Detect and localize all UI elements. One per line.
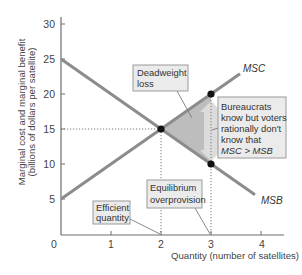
y-axis-title: Marginal cost and marginal benefit (bill… (16, 38, 37, 185)
x-tick-label-2: 2 (158, 238, 164, 250)
data-point (207, 90, 214, 97)
y-tick-label-25: 25 (43, 53, 55, 65)
y-tick-label-5: 5 (49, 193, 55, 205)
efficient-pointer (130, 219, 160, 234)
bureaucrats-callout: Bureaucrats know but voters rationally d… (218, 97, 287, 158)
y-tick-label-10: 10 (43, 158, 55, 170)
y-tick-label-30: 30 (43, 18, 55, 30)
x-tick-label-3: 3 (208, 238, 214, 250)
deadweight-loss-callout: Deadweight loss (133, 65, 188, 91)
bureaucrats-line-2: know but voters (221, 112, 287, 123)
deadweight-loss-line-2: loss (137, 78, 154, 89)
x-axis-title: Quantity (number of satellites) (171, 250, 299, 261)
x-tick-label-4: 4 (259, 238, 265, 250)
overprovision-chart: Marginal cost and marginal benefit (bill… (0, 0, 302, 275)
x-tick-label-1: 1 (108, 238, 114, 250)
equilibrium-overprovision-line-1: Equilibrium (150, 182, 197, 193)
equilibrium-overprovision-callout: Equilibrium overprovision (147, 180, 206, 208)
bureaucrats-line-4: know that (221, 134, 262, 145)
msc-label: MSC (243, 63, 266, 74)
equilibrium-pointer (195, 208, 210, 234)
efficient-quantity-line-2: quantity (96, 212, 129, 223)
y-axis-title-line-2: (billions of dollars per satellite) (26, 47, 37, 176)
y-tick-label-15: 15 (43, 123, 55, 135)
data-point (157, 125, 164, 132)
x-tick-labels: 0 1 2 3 4 (51, 238, 265, 250)
y-tick-label-20: 20 (43, 88, 55, 100)
y-tick-labels: 30 25 20 15 10 5 (43, 18, 55, 205)
origin-label: 0 (51, 238, 57, 250)
data-point (207, 160, 214, 167)
msb-label: MSB (261, 195, 283, 206)
bureaucrats-line-3: rationally don't (221, 123, 282, 134)
bureaucrats-line-5: MSC > MSB (221, 145, 273, 156)
equilibrium-overprovision-line-2: overprovision (150, 194, 206, 205)
bureaucrats-line-1: Bureaucrats (221, 101, 272, 112)
efficient-quantity-callout: Efficient quantity (93, 201, 130, 224)
deadweight-loss-line-1: Deadweight (137, 67, 187, 78)
